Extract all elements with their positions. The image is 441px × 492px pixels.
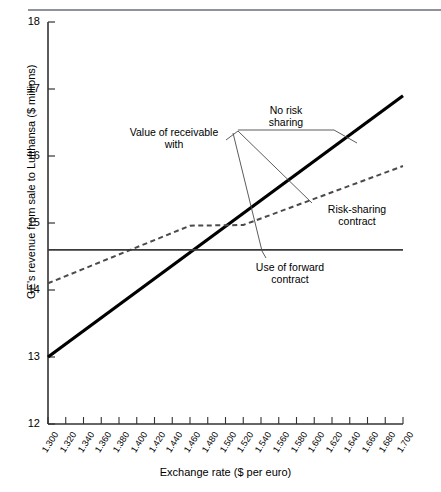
y-tick-marks [48,22,55,424]
annotation-no-risk-sharing: No risk sharing [246,104,326,128]
annotation-risk-sharing-contract-line2: contract [305,215,409,227]
annotation-no-risk-sharing-line1: No risk [246,104,326,116]
annotation-use-of-forward-contract-line1: Use of forward [232,261,348,273]
annotation-value-of-receivable: Value of receivable with [112,126,236,150]
y-tick-label: 16 [18,149,40,161]
y-tick-label: 18 [18,15,40,27]
y-axis-label: GE's revenue from sale to Lufthansa ($ m… [25,69,37,299]
y-tick-label: 17 [18,82,40,94]
y-tick-label: 13 [18,350,40,362]
annotation-leader-lines [226,130,357,258]
chart-plot-area: GE's revenue from sale to Lufthansa ($ m… [0,0,441,492]
x-axis-label: Exchange rate ($ per euro) [48,466,403,478]
chart-svg [0,0,441,492]
annotation-value-of-receivable-line2: with [112,138,236,150]
leader-forward-hook [262,251,266,258]
chart-page: GE's revenue from sale to Lufthansa ($ m… [0,0,441,492]
annotation-value-of-receivable-line1: Value of receivable [112,126,236,138]
annotation-risk-sharing-contract-line1: Risk-sharing [305,203,409,215]
y-tick-label: 14 [18,283,40,295]
annotation-no-risk-sharing-line2: sharing [246,116,326,128]
annotation-use-of-forward-contract-line2: contract [232,273,348,285]
leader-risk-sharing [238,131,312,203]
y-tick-label: 15 [18,216,40,228]
x-tick-marks [48,417,403,424]
annotation-risk-sharing-contract: Risk-sharing contract [305,203,409,227]
y-tick-label: 12 [18,417,40,429]
annotation-use-of-forward-contract: Use of forward contract [232,261,348,285]
